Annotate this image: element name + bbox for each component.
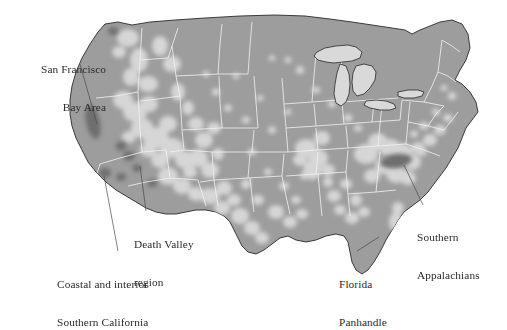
lake-ontario [398, 90, 424, 98]
label-line-1: San Francisco [22, 63, 106, 76]
hotspot-sierra-nevada [116, 142, 127, 151]
hotspot-southern-california-coastal [99, 168, 111, 178]
label-line-1: Southern [417, 231, 507, 244]
label-line-1: Coastal and interior [57, 278, 197, 291]
label-coastal-interior-southern-california: Coastal and interior Southern California [57, 253, 197, 330]
label-line-1: Death Valley [134, 238, 210, 251]
hotspot-pacific-northwest-coast [108, 27, 118, 35]
hotspot-death-valley [123, 151, 135, 161]
label-line-2: Bay Area [22, 101, 106, 114]
label-southern-appalachians: Southern Appalachians [417, 206, 507, 307]
label-line-2: Southern California [57, 316, 197, 329]
label-line-2: Panhandle [339, 316, 431, 329]
label-san-francisco-bay-area: San Francisco Bay Area [22, 38, 106, 139]
hotspot-southern-california-inland [116, 173, 126, 181]
label-line-2: Appalachians [417, 269, 507, 282]
